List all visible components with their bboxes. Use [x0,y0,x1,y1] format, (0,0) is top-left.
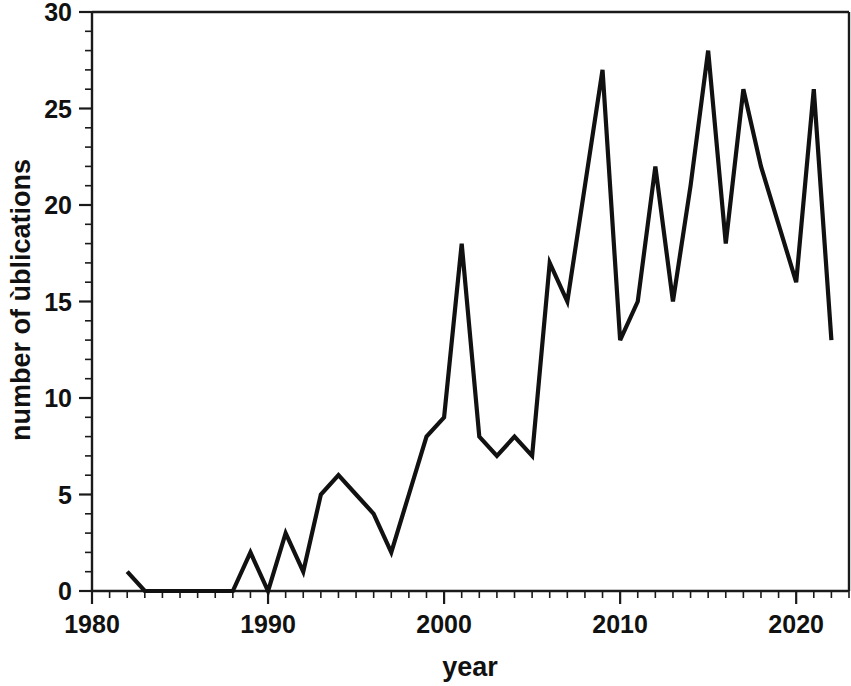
x-axis-tick-labels: 19801990200020102020 [64,610,824,638]
y-tick-label: 10 [44,384,72,412]
y-tick-label: 20 [44,191,72,219]
axis-spines [92,12,849,591]
y-tick-label: 0 [58,577,72,605]
y-axis-title: number of ùblications [6,159,36,441]
publications-series-line [127,51,831,591]
y-tick-label: 25 [44,95,72,123]
publications-per-year-line-chart: 051015202530 19801990200020102020 year n… [0,0,851,686]
y-tick-label: 30 [44,0,72,26]
x-axis-title: year [442,652,498,682]
x-tick-label: 2010 [592,610,648,638]
chart-figure: 051015202530 19801990200020102020 year n… [0,0,851,686]
x-tick-label: 1980 [64,610,120,638]
x-tick-label: 2020 [768,610,824,638]
x-tick-label: 2000 [416,610,472,638]
y-tick-label: 15 [44,288,72,316]
x-tick-label: 1990 [240,610,296,638]
y-axis-ticks [79,12,92,591]
y-axis-tick-labels: 051015202530 [44,0,72,605]
y-tick-label: 5 [58,481,72,509]
